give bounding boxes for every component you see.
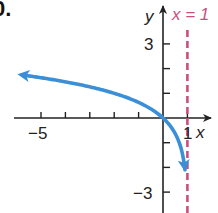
y-axis-label: y <box>144 7 155 26</box>
x-axis-label: x <box>195 123 205 142</box>
function-curve <box>26 76 185 170</box>
y-tick-label-neg3: −3 <box>133 184 152 203</box>
asymptote-label: x = 1 <box>171 5 209 24</box>
function-graph: y x x = 1 −5 1 3 −3 <box>0 0 218 213</box>
x-tick-label-1: 1 <box>183 124 192 143</box>
x-tick-label-neg5: −5 <box>28 124 47 143</box>
y-tick-label-3: 3 <box>144 35 153 54</box>
